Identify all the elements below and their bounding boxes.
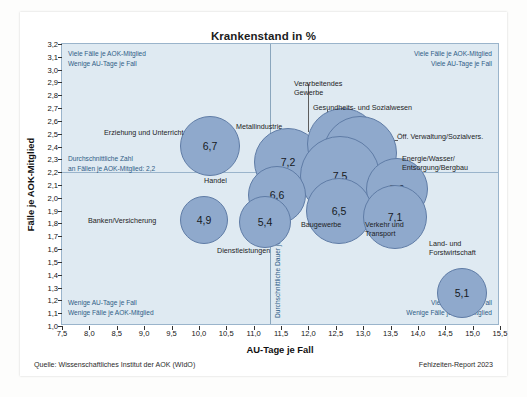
bubble-value-label: 5,4	[258, 216, 273, 228]
x-tick-mark	[89, 326, 90, 330]
figure-card: Krankenstand in % Fälle je AOK-Mitglied …	[20, 12, 507, 376]
y-tick-mark	[58, 262, 62, 263]
y-tick-label: 1,3	[47, 283, 58, 292]
y-tick-label: 2,7	[47, 104, 58, 113]
y-tick-mark	[58, 147, 62, 148]
x-tick-label: 11,5	[274, 329, 288, 338]
y-tick-label: 1,5	[47, 257, 58, 266]
report-note: Fehlzeiten-Report 2023	[419, 361, 493, 369]
bubble-erziehung-und-unterricht[interactable]: 6,7	[180, 116, 240, 176]
x-tick-label: 7,5	[57, 329, 68, 338]
energie-wasser-bergbau-label: Energie/Wasser/ Entsorgung/Bergbau	[402, 154, 468, 172]
y-tick-mark	[58, 57, 62, 58]
x-axis-title: AU-Tage je Fall	[61, 344, 499, 355]
x-tick-label: 13,5	[383, 329, 398, 338]
y-tick-mark	[58, 223, 62, 224]
note-bottom-left: Wenige AU-Tage je Fall Wenige Fälle je A…	[68, 298, 154, 318]
bubble-verkehr-und-transport[interactable]: 7,1	[363, 185, 427, 249]
figure-page: Krankenstand in % Fälle je AOK-Mitglied …	[0, 0, 527, 397]
y-tick-mark	[58, 82, 62, 83]
y-tick-label: 2,5	[47, 129, 58, 138]
y-tick-mark	[58, 185, 62, 186]
y-tick-mark	[58, 121, 62, 122]
x-tick-mark	[336, 326, 337, 330]
y-tick-mark	[58, 159, 62, 160]
y-tick-label: 1,6	[47, 245, 58, 254]
y-tick-mark	[58, 134, 62, 135]
x-tick-mark	[226, 326, 227, 330]
y-tick-label: 1,4	[47, 270, 58, 279]
x-tick-mark	[172, 326, 173, 330]
bubble-banken-versicherung[interactable]: 4,9	[180, 196, 228, 244]
bubble-value-label: 6,5	[332, 205, 347, 217]
x-tick-label: 15,0	[465, 329, 480, 338]
bubble-baugewerbe[interactable]: 6,5	[306, 178, 372, 244]
y-tick-mark	[58, 236, 62, 237]
bubble-land-und-forstwirtschaft[interactable]: 5,1	[437, 268, 487, 318]
x-tick-label: 9,0	[139, 329, 150, 338]
y-tick-mark	[58, 288, 62, 289]
x-tick-label: 10,0	[191, 329, 206, 338]
y-tick-mark	[58, 300, 62, 301]
x-tick-mark	[445, 326, 446, 330]
x-tick-mark	[62, 326, 63, 330]
page-title: Krankenstand in %	[20, 30, 507, 42]
y-tick-mark	[58, 211, 62, 212]
x-tick-mark	[254, 326, 255, 330]
x-tick-label: 12,0	[301, 329, 316, 338]
y-tick-label: 2,2	[47, 168, 58, 177]
y-tick-label: 1,1	[47, 309, 58, 318]
x-tick-mark	[281, 326, 282, 330]
x-tick-label: 9,5	[166, 329, 177, 338]
metallindustrie-label: Metallindustrie	[236, 122, 282, 131]
x-tick-mark	[144, 326, 145, 330]
x-tick-label: 14,5	[438, 329, 453, 338]
y-tick-mark	[58, 275, 62, 276]
y-tick-label: 1,7	[47, 232, 58, 241]
y-tick-mark	[58, 249, 62, 250]
note-mean-y: Durchschnittliche Zahl an Fällen je AOK-…	[68, 154, 155, 174]
x-tick-mark	[500, 326, 501, 330]
y-axis-title-text: Fälle je AOK-Mitglied	[26, 137, 37, 230]
y-tick-label: 1,8	[47, 219, 58, 228]
x-tick-mark	[473, 326, 474, 330]
bubble-dienstleistungen[interactable]: 5,4	[239, 196, 291, 248]
x-tick-mark	[308, 326, 309, 330]
gesundheits-sozialwesen-label: Gesundheits- und Sozialwesen	[313, 103, 412, 112]
land-forstwirtschaft-label: Land- und Forstwirtschaft	[429, 239, 476, 257]
y-tick-mark	[58, 108, 62, 109]
y-tick-label: 2,0	[47, 193, 58, 202]
x-tick-label: 15,5	[493, 329, 508, 338]
plot-area: 1,01,11,21,31,41,51,61,71,81,92,02,12,22…	[61, 43, 499, 325]
note-top-right: Viele Fälle je AOK-Mitglied Viele AU-Tag…	[414, 49, 492, 69]
x-tick-label: 11,0	[247, 329, 261, 338]
verarbeitendes-gewerbe-label: Verarbeitendes Gewerbe	[294, 79, 342, 97]
y-tick-mark	[58, 313, 62, 314]
y-tick-label: 2,8	[47, 91, 58, 100]
x-tick-label: 10,5	[219, 329, 234, 338]
y-tick-label: 2,4	[47, 142, 58, 151]
bubble-value-label: 4,9	[197, 214, 212, 226]
y-tick-label: 2,1	[47, 181, 58, 190]
bubble-value-label: 5,1	[455, 287, 470, 299]
source-note: Quelle: Wissenschaftliches Institut der …	[34, 361, 195, 369]
x-tick-mark	[117, 326, 118, 330]
y-tick-label: 3,2	[47, 40, 58, 49]
y-tick-label: 3,1	[47, 52, 58, 61]
dienstleistungen-label: Dienstleistungen	[217, 246, 270, 255]
y-tick-mark	[58, 95, 62, 96]
banken-versicherung-label: Banken/Versicherung	[88, 216, 156, 225]
y-tick-mark	[58, 70, 62, 71]
x-tick-label: 12,5	[328, 329, 343, 338]
y-tick-label: 1,9	[47, 206, 58, 215]
x-tick-label: 14,0	[410, 329, 425, 338]
y-tick-mark	[58, 198, 62, 199]
handel-label: Handel	[204, 176, 227, 185]
y-tick-mark	[58, 44, 62, 45]
bubble-value-label: 6,7	[203, 140, 218, 152]
note-top-left: Viele Fälle je AOK-Mitglied Wenige AU-Ta…	[68, 49, 146, 69]
x-tick-label: 13,0	[356, 329, 371, 338]
y-tick-label: 2,6	[47, 116, 58, 125]
x-tick-mark	[363, 326, 364, 330]
x-tick-mark	[391, 326, 392, 330]
